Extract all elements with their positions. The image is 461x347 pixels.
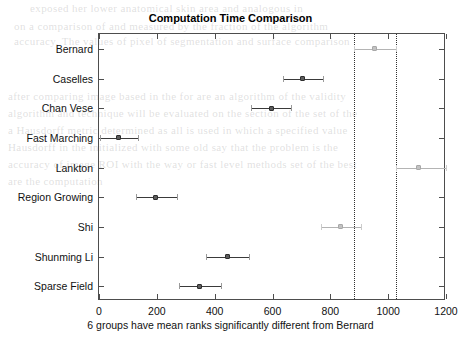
mean-marker[interactable]	[300, 76, 305, 81]
x-tick-mark	[215, 294, 216, 299]
confidence-interval-cap	[251, 105, 252, 111]
confidence-interval-cap	[136, 194, 137, 200]
mean-marker[interactable]	[372, 46, 377, 51]
reference-line	[354, 34, 355, 299]
mean-marker[interactable]	[197, 284, 202, 289]
mean-marker[interactable]	[153, 195, 158, 200]
y-tick-mark	[439, 138, 444, 139]
x-axis-tick-label: 1200	[434, 305, 457, 317]
x-tick-mark	[330, 294, 331, 299]
confidence-interval-cap	[361, 224, 362, 230]
y-tick-mark	[439, 257, 444, 258]
confidence-interval-cap	[396, 165, 397, 171]
confidence-interval-cap	[100, 135, 101, 141]
confidence-interval-cap	[321, 224, 322, 230]
confidence-interval-cap	[291, 105, 292, 111]
x-tick-mark	[99, 34, 100, 39]
x-axis-tick-label: 800	[322, 305, 340, 317]
x-tick-mark	[388, 34, 389, 39]
plot-inner: 020040060080010001200BernardCasellesChan…	[99, 34, 444, 299]
x-tick-mark	[446, 294, 447, 299]
y-axis-label-lankton: Lankton	[56, 162, 93, 174]
mean-marker[interactable]	[116, 135, 121, 140]
mean-marker[interactable]	[225, 254, 230, 259]
y-tick-mark	[99, 197, 104, 198]
mean-marker[interactable]	[416, 165, 421, 170]
x-axis-tick-label: 600	[264, 305, 282, 317]
x-tick-mark	[215, 34, 216, 39]
y-tick-mark	[99, 286, 104, 287]
y-tick-mark	[439, 286, 444, 287]
x-axis-tick-label: 400	[206, 305, 224, 317]
x-tick-mark	[157, 34, 158, 39]
chart-title: Computation Time Comparison	[0, 12, 461, 24]
confidence-interval-cap	[283, 76, 284, 82]
x-tick-mark	[388, 294, 389, 299]
y-tick-mark	[99, 227, 104, 228]
confidence-interval-cap	[249, 254, 250, 260]
y-axis-label-region-growing: Region Growing	[18, 191, 93, 203]
confidence-interval-cap	[221, 283, 222, 289]
y-axis-label-sparse-field: Sparse Field	[34, 280, 93, 292]
x-tick-mark	[157, 294, 158, 299]
y-tick-mark	[99, 108, 104, 109]
x-axis-tick-label: 200	[148, 305, 166, 317]
y-axis-label-fast-marching: Fast Marching	[26, 132, 93, 144]
confidence-interval-cap	[179, 283, 180, 289]
x-axis-caption: 6 groups have mean ranks significantly d…	[0, 319, 461, 331]
y-tick-mark	[99, 168, 104, 169]
y-tick-mark	[439, 108, 444, 109]
confidence-interval-cap	[206, 254, 207, 260]
y-tick-mark	[439, 197, 444, 198]
y-tick-mark	[99, 257, 104, 258]
confidence-interval-cap	[177, 194, 178, 200]
x-tick-mark	[330, 34, 331, 39]
y-axis-label-caselles: Caselles	[53, 73, 93, 85]
x-tick-mark	[446, 34, 447, 39]
chart-figure: Computation Time Comparison 020040060080…	[0, 0, 461, 347]
mean-marker[interactable]	[338, 224, 343, 229]
y-tick-mark	[99, 49, 104, 50]
x-tick-mark	[273, 34, 274, 39]
y-tick-mark	[439, 79, 444, 80]
y-axis-label-shi: Shi	[78, 221, 93, 233]
confidence-interval-cap	[354, 46, 355, 52]
mean-marker[interactable]	[269, 106, 274, 111]
x-tick-mark	[273, 294, 274, 299]
x-tick-mark	[99, 294, 100, 299]
confidence-interval-cap	[138, 135, 139, 141]
y-axis-label-chan-vese: Chan Vese	[42, 102, 93, 114]
x-axis-tick-label: 0	[96, 305, 102, 317]
plot-area: 020040060080010001200BernardCasellesChan…	[98, 33, 445, 300]
y-tick-mark	[99, 79, 104, 80]
confidence-interval-cap	[396, 46, 397, 52]
x-axis-tick-label: 1000	[376, 305, 399, 317]
y-tick-mark	[439, 49, 444, 50]
y-axis-label-bernard: Bernard	[56, 43, 93, 55]
y-tick-mark	[439, 227, 444, 228]
confidence-interval-cap	[323, 76, 324, 82]
y-axis-label-shunming-li: Shunming Li	[35, 251, 93, 263]
confidence-interval-cap	[446, 165, 447, 171]
